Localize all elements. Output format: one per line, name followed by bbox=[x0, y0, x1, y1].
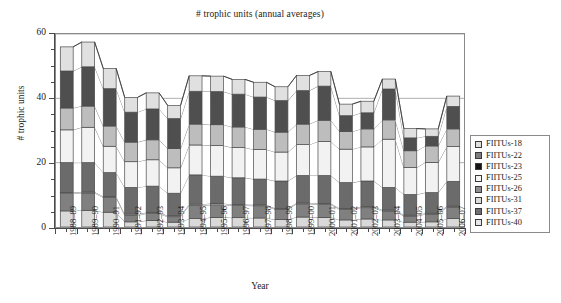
y-tick-minor bbox=[51, 179, 55, 180]
stack-segment bbox=[275, 87, 288, 101]
stack-segment bbox=[318, 120, 331, 141]
x-category-label: 1999–00 bbox=[307, 206, 316, 236]
stack-segment bbox=[60, 71, 73, 108]
x-category-label: 2006–07 bbox=[458, 206, 467, 236]
stack-segment bbox=[60, 108, 73, 130]
legend-item-fiitus-18[interactable]: FIITUs-18 bbox=[475, 139, 546, 150]
legend-swatch-icon bbox=[475, 152, 482, 159]
stack-segment bbox=[125, 142, 138, 162]
stack-segment bbox=[103, 173, 116, 197]
stack-segment bbox=[146, 160, 159, 186]
legend-item-fiitus-40[interactable]: FIITUs-40 bbox=[475, 217, 546, 228]
x-tick-minor bbox=[66, 229, 67, 232]
stack-segment bbox=[318, 141, 331, 175]
x-tick-minor bbox=[346, 229, 347, 232]
stack-segment bbox=[189, 91, 202, 124]
stack-segment bbox=[447, 147, 460, 182]
stack-segment bbox=[318, 86, 331, 120]
y-tick-minor bbox=[51, 82, 55, 83]
x-tick-minor bbox=[454, 229, 455, 232]
stack-segment bbox=[425, 136, 438, 146]
stack-segment bbox=[189, 76, 202, 91]
stack-segment bbox=[125, 112, 138, 142]
stack-segment bbox=[318, 176, 331, 204]
legend-item-fiitus-25[interactable]: FIITUs-25 bbox=[475, 173, 546, 184]
x-tick-minor bbox=[131, 229, 132, 232]
legend-item-fiitus-23[interactable]: FIITUs-23 bbox=[475, 161, 546, 172]
x-category-label: 1998–99 bbox=[285, 206, 294, 236]
legend-item-label: FIITUs-40 bbox=[486, 219, 522, 227]
x-tick-minor bbox=[368, 229, 369, 232]
stack-segment bbox=[254, 82, 267, 97]
stack-segment bbox=[189, 145, 202, 175]
x-category-label: 2004–05 bbox=[415, 206, 424, 236]
stack-segment bbox=[447, 96, 460, 106]
x-category-label: 1988–89 bbox=[69, 206, 78, 236]
plot-area bbox=[55, 33, 465, 228]
stack-segment bbox=[339, 116, 352, 132]
stack-segment bbox=[275, 152, 288, 181]
stack-segment bbox=[425, 129, 438, 136]
x-category-label: 1994–95 bbox=[199, 206, 208, 236]
stack-segment bbox=[82, 67, 95, 106]
stack-segment bbox=[404, 138, 417, 151]
stacked-area-svg bbox=[56, 34, 464, 227]
stack-segment bbox=[103, 126, 116, 146]
stack-segment bbox=[168, 105, 181, 118]
y-tick-major bbox=[49, 98, 55, 99]
stack-segment bbox=[211, 125, 224, 146]
stack-segment bbox=[254, 129, 267, 149]
stack-segment bbox=[425, 162, 438, 192]
x-tick-minor bbox=[87, 229, 88, 232]
x-tick-minor bbox=[260, 229, 261, 232]
x-tick-minor bbox=[433, 229, 434, 232]
x-tick-minor bbox=[195, 229, 196, 232]
stack-segment bbox=[232, 79, 245, 94]
stack-segment bbox=[361, 129, 374, 147]
y-tick-label-text: 0 bbox=[26, 223, 46, 233]
stack-segment bbox=[168, 119, 181, 149]
legend-item-label: FIITUs-26 bbox=[486, 185, 522, 193]
y-tick-minor bbox=[51, 114, 55, 115]
y-tick-minor bbox=[51, 49, 55, 50]
y-tick-minor bbox=[51, 212, 55, 213]
legend-item-fiitus-22[interactable]: FIITUs-22 bbox=[475, 150, 546, 161]
stack-segment bbox=[254, 179, 267, 205]
legend-swatch-icon bbox=[475, 208, 482, 215]
x-category-label: 1989–90 bbox=[91, 206, 100, 236]
stack-segment bbox=[103, 146, 116, 172]
legend-swatch-icon bbox=[475, 141, 482, 148]
stack-segment bbox=[168, 168, 181, 193]
x-axis-title: Year bbox=[55, 281, 465, 291]
y-tick-label-text: 20 bbox=[26, 158, 46, 168]
stack-segment bbox=[211, 92, 224, 125]
y-tick-minor bbox=[51, 66, 55, 67]
stack-segment bbox=[339, 131, 352, 149]
stack-segment bbox=[146, 140, 159, 160]
stack-segment bbox=[297, 145, 310, 176]
x-tick-minor bbox=[411, 229, 412, 232]
stack-segment bbox=[232, 148, 245, 178]
stack-segment bbox=[103, 68, 116, 88]
x-tick-minor bbox=[389, 229, 390, 232]
stack-segment bbox=[189, 124, 202, 145]
stack-segment bbox=[82, 163, 95, 192]
legend-item-fiitus-31[interactable]: FIITUs-31 bbox=[475, 195, 546, 206]
legend-item-label: FIITUs-22 bbox=[486, 152, 522, 160]
chart-legend: FIITUs-18FIITUs-22FIITUs-23FIITUs-25FIIT… bbox=[470, 135, 550, 233]
legend-item-fiitus-37[interactable]: FIITUs-37 bbox=[475, 206, 546, 217]
stack-segment bbox=[297, 176, 310, 203]
stack-segment bbox=[404, 167, 417, 194]
x-category-label: 1997–98 bbox=[264, 206, 273, 236]
stack-segment bbox=[275, 101, 288, 133]
legend-item-fiitus-26[interactable]: FIITUs-26 bbox=[475, 184, 546, 195]
legend-item-label: FIITUs-25 bbox=[486, 174, 522, 182]
legend-swatch-icon bbox=[475, 163, 482, 170]
stack-segment bbox=[189, 175, 202, 204]
x-tick-minor bbox=[325, 229, 326, 232]
stack-segment bbox=[211, 76, 224, 91]
x-tick-minor bbox=[303, 229, 304, 232]
stack-segment bbox=[168, 149, 181, 168]
stack-segment bbox=[232, 94, 245, 127]
stack-segment bbox=[361, 113, 374, 129]
